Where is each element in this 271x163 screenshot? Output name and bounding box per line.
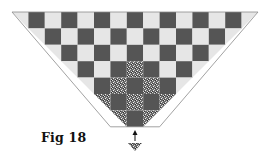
- light-cell: [143, 45, 159, 61]
- dark-cell: [176, 28, 192, 44]
- light-cell: [160, 61, 176, 77]
- speckled-cell: [143, 78, 159, 94]
- light-cell: [94, 28, 110, 44]
- light-cell: [28, 28, 44, 44]
- dark-cell: [110, 61, 126, 77]
- speckled-cell: [110, 78, 126, 94]
- light-cell: [61, 61, 77, 77]
- light-cell: [192, 28, 208, 44]
- light-cell: [94, 61, 110, 77]
- dark-cell: [160, 78, 176, 94]
- small-inverted-triangle: [128, 143, 142, 151]
- light-cell: [110, 45, 126, 61]
- speckled-cell: [110, 110, 126, 126]
- dark-cell: [78, 28, 94, 44]
- dark-cell: [110, 28, 126, 44]
- speckled-cell: [94, 94, 110, 110]
- light-cell: [225, 28, 241, 44]
- dark-cell: [61, 12, 77, 28]
- dark-cell: [127, 12, 143, 28]
- dark-cell: [61, 45, 77, 61]
- figure-canvas: Fig 18: [0, 0, 271, 163]
- arrow-up-icon: [133, 130, 138, 141]
- light-cell: [110, 12, 126, 28]
- dark-cell: [143, 28, 159, 44]
- dark-cell: [143, 61, 159, 77]
- dark-cell: [160, 12, 176, 28]
- dark-cell: [94, 78, 110, 94]
- board-cells: [12, 12, 258, 127]
- dark-cell: [192, 12, 208, 28]
- light-cell: [45, 12, 61, 28]
- dark-cell: [94, 12, 110, 28]
- light-cell: [78, 12, 94, 28]
- dark-cell: [127, 78, 143, 94]
- light-cell: [176, 45, 192, 61]
- dark-cell: [94, 45, 110, 61]
- dark-cell: [28, 12, 44, 28]
- light-cell: [160, 28, 176, 44]
- dark-cell: [160, 45, 176, 61]
- dark-cell: [192, 45, 208, 61]
- light-cell: [143, 12, 159, 28]
- dark-cell: [127, 110, 143, 126]
- dark-cell: [45, 28, 61, 44]
- light-cell: [127, 28, 143, 44]
- light-cell: [209, 12, 225, 28]
- dark-cell: [143, 94, 159, 110]
- dark-cell: [110, 94, 126, 110]
- dark-cell: [127, 45, 143, 61]
- figure-caption: Fig 18: [41, 130, 86, 145]
- speckled-cell: [143, 110, 159, 126]
- speckled-cell: [127, 94, 143, 110]
- dark-cell: [176, 61, 192, 77]
- light-cell: [176, 12, 192, 28]
- dark-cell: [78, 61, 94, 77]
- speckled-cell: [160, 94, 176, 110]
- dark-cell: [209, 28, 225, 44]
- dark-cell: [225, 12, 241, 28]
- speckled-cell: [127, 61, 143, 77]
- light-cell: [78, 45, 94, 61]
- light-cell: [192, 61, 208, 77]
- light-cell: [61, 28, 77, 44]
